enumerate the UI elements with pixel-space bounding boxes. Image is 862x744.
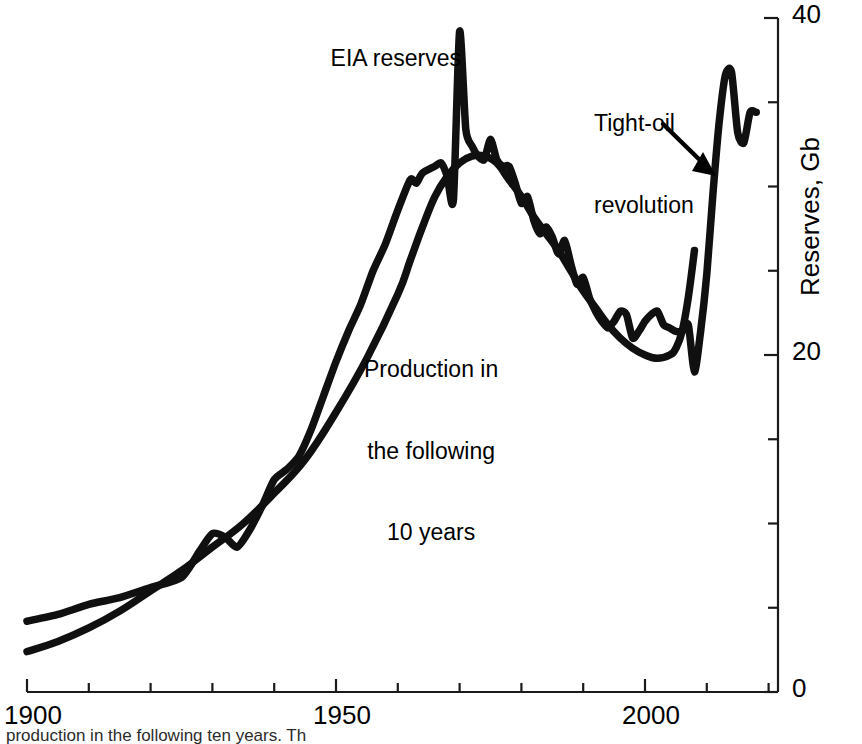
y-axis-ticks xyxy=(764,18,778,692)
annotation-eia-reserves-text: EIA reserves xyxy=(331,45,461,71)
annotation-production-line1: Production in xyxy=(364,356,498,383)
annotation-production-line2: the following xyxy=(364,438,498,465)
x-axis-ticks xyxy=(27,679,769,692)
annotation-production-line3: 10 years xyxy=(364,519,498,546)
annotation-tight-oil-line2: revolution xyxy=(594,192,694,219)
y-axis-title: Reserves, Gb xyxy=(795,56,826,296)
y-tick-label-0: 0 xyxy=(792,673,806,704)
annotation-production-following: Production in the following 10 years xyxy=(364,302,498,600)
y-tick-label-20: 20 xyxy=(792,336,821,367)
chart-figure: EIA reserves Tight-oil revolution Produc… xyxy=(0,0,862,744)
annotation-tight-oil-revolution: Tight-oil revolution xyxy=(594,56,694,273)
annotation-tight-oil-line1: Tight-oil xyxy=(594,110,694,137)
y-tick-label-40: 40 xyxy=(792,0,821,30)
figure-caption: production in the following ten years. T… xyxy=(6,726,862,744)
annotation-eia-reserves: EIA reserves xyxy=(305,18,461,99)
